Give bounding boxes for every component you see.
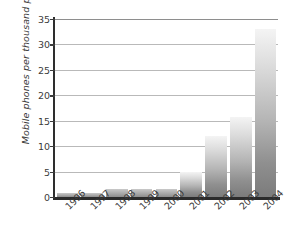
bar-2004 — [255, 29, 277, 197]
bar-2002 — [205, 136, 227, 197]
bars-group — [55, 19, 278, 197]
y-tick-label-30: 30 — [38, 39, 50, 50]
y-tick-mark-0 — [50, 197, 55, 198]
y-tick-label-15: 15 — [38, 115, 50, 126]
y-tick-label-20: 20 — [38, 90, 50, 101]
y-tick-label-35: 35 — [38, 14, 50, 25]
y-axis-title: Mobile phones per thousand people — [20, 0, 31, 153]
y-tick-label-10: 10 — [38, 141, 50, 152]
bar-2003 — [230, 117, 252, 197]
plot-area: 05101520253035 — [55, 19, 278, 197]
x-axis-labels: 199619971998199920002001200220032004 — [55, 200, 278, 247]
y-tick-label-25: 25 — [38, 64, 50, 75]
bar-chart-figure: Mobile phones per thousand people 051015… — [0, 0, 290, 247]
